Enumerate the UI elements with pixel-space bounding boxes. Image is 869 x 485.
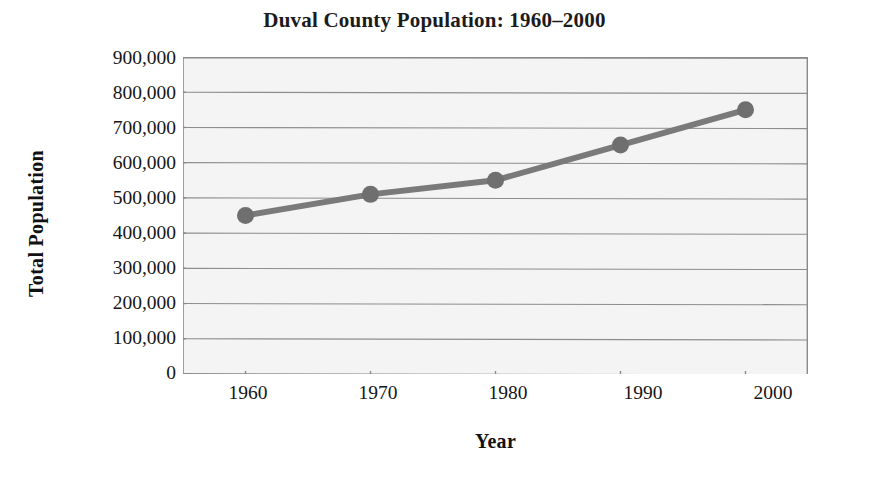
chart-figure: Duval County Population: 1960–2000 900,0… xyxy=(0,0,869,485)
y-tick-label: 300,000 xyxy=(80,258,176,278)
data-point-marker xyxy=(487,172,504,189)
chart-plot-svg xyxy=(183,57,808,374)
y-tick-label: 500,000 xyxy=(80,188,176,208)
y-tick-label: 900,000 xyxy=(80,48,176,68)
x-tick-label: 1960 xyxy=(193,383,303,403)
y-tick-label: 700,000 xyxy=(80,118,176,138)
data-point-marker xyxy=(237,207,254,224)
gridline xyxy=(183,339,808,340)
gridline xyxy=(183,233,808,234)
data-point-marker xyxy=(362,186,379,203)
y-tick-label: 100,000 xyxy=(80,328,176,348)
gridlines xyxy=(183,57,808,374)
y-tick-label: 400,000 xyxy=(80,223,176,243)
axis-spines xyxy=(183,57,808,374)
gridline xyxy=(183,198,808,199)
x-tick-label: 1980 xyxy=(453,383,563,403)
x-tick-label: 1970 xyxy=(323,383,433,403)
y-tick-label: 800,000 xyxy=(80,83,176,103)
x-axis-title: Year xyxy=(183,430,808,453)
data-point-marker xyxy=(612,137,629,154)
axis-ticks xyxy=(183,57,746,374)
gridline xyxy=(183,268,808,269)
gridline xyxy=(183,92,808,93)
gridline xyxy=(183,163,808,164)
y-axis-title: Total Population xyxy=(25,124,48,324)
gridline xyxy=(183,127,808,128)
gridline xyxy=(183,304,808,305)
plot-area xyxy=(183,57,808,374)
y-tick-label: 0 xyxy=(80,363,176,383)
x-tick-label: 1990 xyxy=(588,383,698,403)
y-tick-label: 600,000 xyxy=(80,153,176,173)
x-tick-label: 2000 xyxy=(718,383,828,403)
y-tick-label: 200,000 xyxy=(80,293,176,313)
x-axis-tick-labels: 1960 1970 1980 1990 2000 xyxy=(0,383,869,413)
data-point-marker xyxy=(737,101,754,118)
